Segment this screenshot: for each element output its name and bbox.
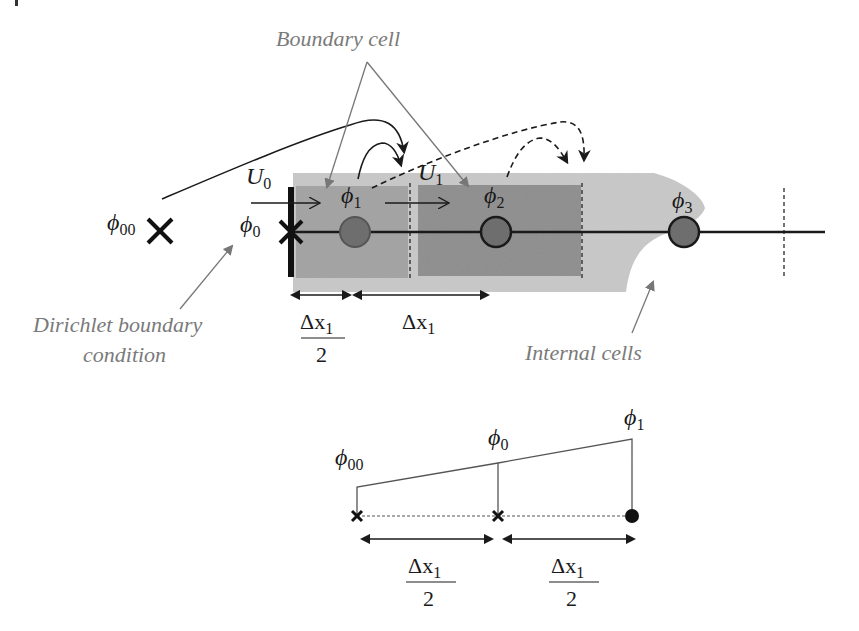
boundary-cell-label: Boundary cell (276, 26, 400, 51)
svg-text:Δx1: Δx1 (551, 553, 584, 581)
bottom-label-phi0: ϕ0 (488, 424, 508, 453)
internal-cells-label: Internal cells (524, 340, 642, 365)
label-u0: U0 (246, 163, 271, 192)
interpolation-sub-diagram (357, 439, 632, 516)
label-dx-top: Δx1 (402, 309, 435, 337)
bottom-label-phi1: ϕ1 (624, 404, 644, 433)
node-phi3-icon (669, 217, 699, 247)
bottom-label-half-dx-right: Δx1 2 (549, 553, 599, 611)
finite-volume-boundary-diagram: Boundary cell Dirichlet boundary conditi… (0, 0, 859, 631)
ghost-node-cross-icon (148, 219, 172, 243)
boundary-cell-pointer (327, 62, 468, 187)
label-half-dx-top: Δx1 2 (300, 309, 345, 367)
corner-mark (15, 0, 18, 6)
label-phi00: ϕ00 (107, 209, 135, 238)
internal-cells-pointer (632, 282, 653, 333)
svg-text:Δx1: Δx1 (300, 309, 333, 337)
svg-text:Δx1: Δx1 (408, 553, 441, 581)
dirichlet-label-line2: condition (83, 342, 166, 367)
svg-text:2: 2 (316, 342, 327, 367)
bottom-node-phi1-icon (625, 509, 639, 523)
dirichlet-pointer (180, 246, 232, 309)
dashed-arrow-phi2-to-face2 (507, 138, 567, 177)
bottom-label-phi00: ϕ00 (335, 444, 363, 473)
label-u1: U1 (418, 159, 443, 188)
label-phi0: ϕ0 (240, 211, 260, 240)
svg-text:2: 2 (566, 586, 577, 611)
dirichlet-label-line1: Dirichlet boundary (32, 312, 202, 337)
node-phi2-icon (481, 217, 511, 247)
svg-text:2: 2 (423, 586, 434, 611)
node-phi1-icon (340, 217, 370, 247)
bottom-label-half-dx-left: Δx1 2 (406, 553, 456, 611)
